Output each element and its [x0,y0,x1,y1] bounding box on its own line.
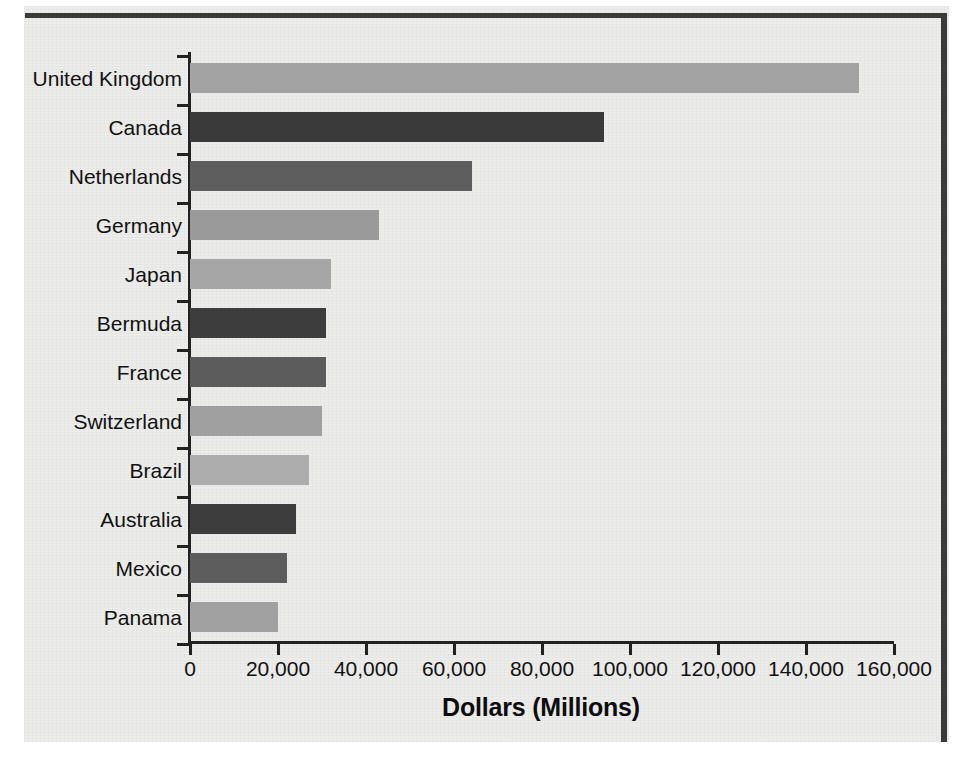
bar [190,504,296,534]
category-label: Brazil [129,460,189,481]
x-axis-tick [541,644,544,655]
y-axis-tick [177,202,189,205]
x-axis-tick-label: 0 [184,657,196,681]
category-label: Germany [96,215,189,236]
x-axis-tick [365,644,368,655]
bar [190,112,604,142]
y-axis-tick [177,55,189,58]
y-axis-tick [177,643,189,646]
x-axis-tick-label: 100,000 [592,657,668,681]
bar [190,63,859,93]
x-axis-tick [893,644,896,655]
x-axis-tick [805,644,808,655]
x-axis-tick [277,644,280,655]
y-axis-tick [177,349,189,352]
bar [190,455,309,485]
bar [190,602,278,632]
category-label: Netherlands [69,166,189,187]
bar [190,553,287,583]
bar [190,308,326,338]
y-axis-tick [177,496,189,499]
bar [190,259,331,289]
y-axis-tick [177,251,189,254]
bar [190,161,472,191]
category-label: Canada [108,117,189,138]
category-label: Switzerland [73,411,189,432]
horizontal-bar-chart: United KingdomCanadaNetherlandsGermanyJa… [0,0,973,762]
x-axis-tick-label: 60,000 [422,657,486,681]
y-axis-tick [177,300,189,303]
y-axis-tick [177,594,189,597]
x-axis-tick-label: 40,000 [334,657,398,681]
y-axis-tick [177,447,189,450]
scanned-page: United KingdomCanadaNetherlandsGermanyJa… [0,0,973,762]
x-axis-tick-label: 20,000 [246,657,310,681]
x-axis-tick-label: 80,000 [510,657,574,681]
category-label: Bermuda [97,313,189,334]
y-axis-tick [177,398,189,401]
y-axis-tick [177,153,189,156]
category-label: Mexico [115,558,189,579]
x-axis-tick [453,644,456,655]
x-axis-tick [717,644,720,655]
category-label: France [117,362,189,383]
bar [190,210,379,240]
x-axis-tick [189,644,192,655]
bar [190,406,322,436]
category-label: United Kingdom [33,68,189,89]
category-label: Japan [125,264,189,285]
bar [190,357,326,387]
x-axis-tick-label: 120,000 [680,657,756,681]
x-axis-tick-label: 140,000 [768,657,844,681]
y-axis-tick [177,104,189,107]
x-axis-tick [629,644,632,655]
category-label: Panama [104,607,189,628]
x-axis-title: Dollars (Millions) [188,693,894,722]
y-axis-tick [177,545,189,548]
x-axis-tick-label: 160,000 [856,657,932,681]
category-label: Australia [100,509,189,530]
